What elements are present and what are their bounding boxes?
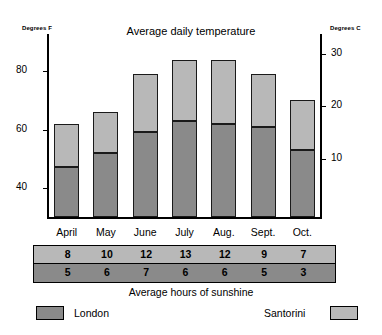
right-axis-tick-label: 20: [331, 99, 371, 110]
right-axis-tick: [322, 159, 326, 160]
sunshine-cell-santorini: 10: [87, 246, 127, 263]
sunshine-cell-london: 7: [126, 264, 166, 281]
bar-segment-santorini: [251, 74, 276, 127]
bar-column: [172, 60, 197, 218]
bar-segment-santorini: [211, 60, 236, 124]
bar-segment-london: [93, 153, 118, 217]
month-label: Aug.: [204, 226, 244, 238]
sunshine-cell-london: 6: [87, 264, 127, 281]
month-label-row: AprilMayJuneJulyAug.Sept.Oct.: [47, 226, 322, 242]
sunshine-cell-santorini: 12: [126, 246, 166, 263]
sunshine-table: 81012131297 5676653: [33, 245, 336, 283]
left-axis-tick: [43, 71, 47, 72]
left-axis-tick: [43, 130, 47, 131]
bar-segment-london: [133, 132, 158, 217]
bar-column: [133, 74, 158, 217]
right-axis-tick-label: 30: [331, 47, 371, 58]
right-axis-tick: [322, 54, 326, 55]
plot-area: 806040302010: [47, 34, 322, 219]
bar-segment-london: [172, 121, 197, 217]
right-axis-tick: [322, 106, 326, 107]
sunshine-cell-santorini: 13: [166, 246, 206, 263]
sunshine-cell-london: 5: [244, 264, 284, 281]
sunshine-cell-london: 5: [48, 264, 88, 281]
left-axis-tick-label: 40: [0, 181, 27, 192]
bar-segment-london: [251, 127, 276, 217]
bar-segment-santorini: [54, 124, 79, 168]
table-row-london: 5676653: [34, 264, 335, 282]
bar-segment-santorini: [93, 112, 118, 153]
month-label: May: [86, 226, 126, 238]
bar-segment-santorini: [172, 60, 197, 121]
month-label: April: [47, 226, 87, 238]
sunshine-caption: Average hours of sunshine: [0, 286, 382, 298]
legend-swatch-london: [36, 306, 64, 320]
temperature-sunshine-chart: Degrees F Degrees C Average daily temper…: [0, 0, 382, 335]
month-label: Oct.: [282, 226, 322, 238]
bar-group: [47, 34, 322, 219]
sunshine-cell-santorini: 8: [48, 246, 88, 263]
bar-column: [93, 112, 118, 217]
bar-segment-santorini: [133, 74, 158, 132]
sunshine-cell-london: 3: [283, 264, 323, 281]
left-axis-tick: [43, 188, 47, 189]
bar-segment-london: [211, 124, 236, 217]
sunshine-cell-santorini: 9: [244, 246, 284, 263]
bar-segment-london: [54, 167, 79, 217]
bar-segment-london: [290, 150, 315, 217]
bar-column: [290, 100, 315, 217]
month-label: July: [165, 226, 205, 238]
sunshine-cell-london: 6: [205, 264, 245, 281]
legend-swatch-santorini: [330, 306, 358, 320]
sunshine-cell-santorini: 12: [205, 246, 245, 263]
bar-segment-santorini: [290, 100, 315, 150]
month-label: June: [125, 226, 165, 238]
right-axis-tick-label: 10: [331, 152, 371, 163]
sunshine-cell-london: 6: [166, 264, 206, 281]
left-axis-tick-label: 60: [0, 123, 27, 134]
bar-column: [211, 60, 236, 218]
bar-column: [251, 74, 276, 217]
table-row-santorini: 81012131297: [34, 246, 335, 264]
month-label: Sept.: [243, 226, 283, 238]
legend-label-santorini: Santorini: [264, 307, 305, 319]
legend-label-london: London: [74, 307, 109, 319]
left-axis-tick-label: 80: [0, 64, 27, 75]
sunshine-cell-santorini: 7: [283, 246, 323, 263]
bar-column: [54, 124, 79, 217]
